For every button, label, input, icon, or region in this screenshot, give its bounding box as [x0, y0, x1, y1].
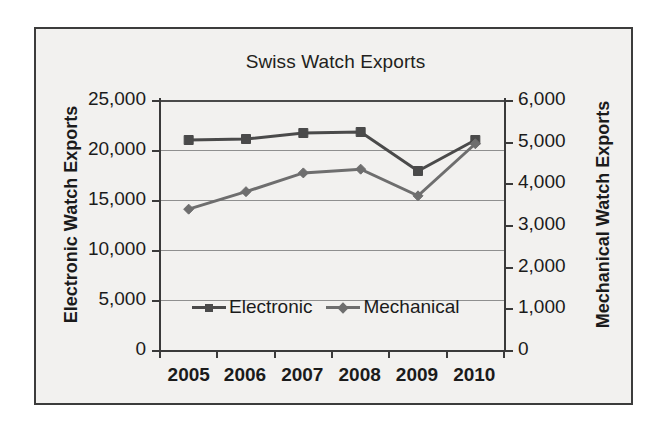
bottom-tick-2 [274, 350, 276, 358]
left-tick-label-0: 0 [36, 338, 146, 360]
right-tick-label-1000: 1,000 [518, 296, 628, 318]
left-tick-20000 [152, 150, 160, 152]
legend-entry-electronic: Electronic [192, 296, 312, 318]
left-tick-25000 [152, 100, 160, 102]
bottom-tick-1 [216, 350, 218, 358]
legend-entry-mechanical: Mechanical [326, 296, 459, 318]
right-tick-5000 [505, 142, 513, 144]
bottom-tick-4 [388, 350, 390, 358]
square-marker-icon [192, 300, 226, 314]
left-tick-label-25000: 25,000 [36, 88, 146, 110]
legend-label-electronic: Electronic [229, 296, 312, 318]
left-tick-5000 [152, 300, 160, 302]
bottom-tick-5 [446, 350, 448, 358]
right-tick-label-6000: 6,000 [518, 88, 628, 110]
bottom-tick-0 [159, 350, 161, 358]
right-tick-6000 [505, 100, 513, 102]
right-tick-4000 [505, 183, 513, 185]
left-tick-label-10000: 10,000 [36, 238, 146, 260]
right-tick-label-2000: 2,000 [518, 255, 628, 277]
right-tick-0 [505, 350, 513, 352]
bottom-tick-3 [331, 350, 333, 358]
left-tick-10000 [152, 250, 160, 252]
right-tick-label-0: 0 [518, 338, 628, 360]
right-tick-label-3000: 3,000 [518, 213, 628, 235]
right-tick-label-4000: 4,000 [518, 171, 628, 193]
mechanical-series-markers [184, 139, 481, 214]
right-tick-1000 [505, 308, 513, 310]
left-tick-label-5000: 5,000 [36, 288, 146, 310]
chart-title: Swiss Watch Exports [36, 51, 635, 73]
plot-area: 25,000 20,000 15,000 10,000 5,000 0 6,00… [160, 100, 504, 350]
electronic-series-markers [184, 128, 480, 176]
chart-legend: Electronic Mechanical [192, 296, 460, 318]
left-tick-15000 [152, 200, 160, 202]
right-tick-2000 [505, 267, 513, 269]
x-tick-label-2010: 2010 [434, 364, 514, 386]
mechanical-series-line [189, 144, 476, 209]
left-tick-label-20000: 20,000 [36, 138, 146, 160]
diamond-marker-icon [326, 300, 360, 314]
electronic-series-line [189, 132, 476, 171]
legend-label-mechanical: Mechanical [363, 296, 459, 318]
chart-figure-frame: Swiss Watch Exports Electronic Watch Exp… [34, 27, 633, 405]
right-tick-label-5000: 5,000 [518, 130, 628, 152]
bottom-tick-6 [503, 350, 505, 358]
chart-screenshot: Swiss Watch Exports Electronic Watch Exp… [0, 0, 658, 434]
right-tick-3000 [505, 225, 513, 227]
left-tick-label-15000: 15,000 [36, 188, 146, 210]
